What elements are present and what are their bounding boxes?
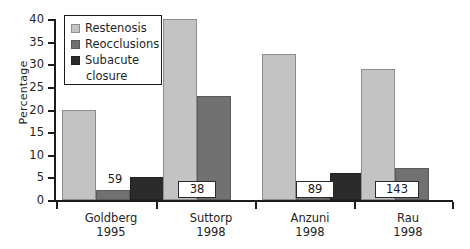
chart-legend: Restenosis Reocclusions Subacute closure — [64, 15, 162, 85]
x-axis-line — [54, 200, 453, 202]
y-tick-35 — [48, 42, 55, 44]
x-group-label-goldberg: Goldberg 1995 — [56, 211, 166, 239]
annotation-suttorp: 38 — [178, 181, 216, 198]
legend-swatch-reocclusions-icon — [71, 40, 80, 49]
y-tick-label-35: 35 — [2, 35, 44, 49]
legend-item-reocclusions: Reocclusions — [71, 37, 161, 52]
annotation-goldberg: 59 — [100, 172, 130, 187]
x-group-name-rau: Rau — [397, 211, 419, 225]
bar-goldberg-reocclusions — [96, 190, 130, 200]
y-tick-label-5: 5 — [2, 170, 44, 184]
y-tick-25 — [48, 87, 55, 89]
y-tick-15 — [48, 132, 55, 134]
legend-swatch-subacute-closure-icon — [71, 56, 80, 65]
x-group-year-rau: 1998 — [353, 225, 463, 239]
y-tick-label-10: 10 — [2, 148, 44, 162]
y-tick-label-30: 30 — [2, 57, 44, 71]
y-tick-label-40: 40 — [2, 12, 44, 26]
x-tick-separator-3 — [354, 202, 356, 209]
legend-label-reocclusions: Reocclusions — [85, 37, 159, 52]
bar-goldberg-restenosis — [62, 110, 96, 201]
bar-suttorp-restenosis — [163, 19, 197, 200]
bar-goldberg-subacute-closure — [130, 177, 164, 200]
legend-label-restenosis: Restenosis — [85, 21, 147, 36]
y-tick-10 — [48, 155, 55, 157]
legend-swatch-restenosis-icon — [71, 24, 80, 33]
x-group-name-goldberg: Goldberg — [85, 211, 138, 225]
legend-label-subacute: Subacute — [85, 53, 139, 68]
bar-anzuni-restenosis — [262, 54, 296, 200]
legend-item-subacute-closure: Subacute — [71, 53, 161, 68]
x-tick-separator-0 — [56, 202, 58, 209]
caption-sliver — [6, 243, 466, 249]
x-group-year-goldberg: 1995 — [56, 225, 166, 239]
legend-label-subacute-continuation: closure — [86, 69, 161, 83]
annotation-rau: 143 — [375, 181, 419, 198]
y-tick-5 — [48, 177, 55, 179]
legend-item-restenosis: Restenosis — [71, 21, 161, 36]
x-group-year-suttorp: 1998 — [156, 225, 266, 239]
y-tick-30 — [48, 64, 55, 66]
y-tick-label-20: 20 — [2, 103, 44, 117]
y-tick-40 — [48, 19, 55, 21]
y-tick-label-25: 25 — [2, 80, 44, 94]
annotation-anzuni: 89 — [296, 181, 334, 198]
x-group-name-suttorp: Suttorp — [190, 211, 233, 225]
bar-anzuni-subacute-closure — [330, 173, 364, 200]
x-group-name-anzuni: Anzuni — [291, 211, 330, 225]
x-group-label-rau: Rau 1998 — [353, 211, 463, 239]
y-tick-label-15: 15 — [2, 125, 44, 139]
y-tick-20 — [48, 110, 55, 112]
x-group-label-suttorp: Suttorp 1998 — [156, 211, 266, 239]
bar-chart: Percentage 0 5 10 15 20 25 30 35 40 59 3… — [0, 0, 470, 249]
x-tick-separator-2 — [255, 202, 257, 209]
y-tick-label-0: 0 — [2, 193, 44, 207]
x-group-label-anzuni: Anzuni 1998 — [255, 211, 365, 239]
x-tick-separator-4 — [452, 202, 454, 209]
x-group-year-anzuni: 1998 — [255, 225, 365, 239]
x-tick-separator-1 — [156, 202, 158, 209]
